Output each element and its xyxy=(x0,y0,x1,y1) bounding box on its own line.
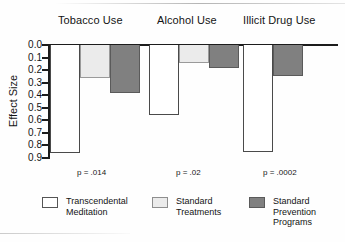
legend-label: Standard Treatments xyxy=(176,196,221,217)
y-tick-mark xyxy=(42,94,49,96)
y-tick-label: 0.4 xyxy=(28,90,42,100)
y-tick-mark xyxy=(42,132,49,134)
y-tick-label: 0.7 xyxy=(28,128,42,138)
y-tick-label: 0.1 xyxy=(28,53,42,63)
p-value-tobacco: p = .014 xyxy=(77,168,106,177)
legend-label: Transcendental Meditation xyxy=(66,196,128,217)
legend-item-transcendental-meditation: Transcendental Meditation xyxy=(42,196,128,217)
bar xyxy=(50,45,80,153)
y-tick-label: 0.8 xyxy=(28,140,42,150)
y-tick-mark xyxy=(42,144,49,146)
y-tick-label: 0.2 xyxy=(28,65,42,75)
legend-swatch-white-icon xyxy=(42,197,58,208)
y-tick-mark xyxy=(42,107,49,109)
y-tick-mark xyxy=(42,57,49,59)
bar xyxy=(149,45,179,115)
y-tick-label: 0.3 xyxy=(28,78,42,88)
y-tick-label: 0.9 xyxy=(28,153,42,163)
y-tick-label: 0.6 xyxy=(28,115,42,125)
y-tick-mark xyxy=(42,157,49,159)
chart-legend: Transcendental Meditation Standard Treat… xyxy=(0,192,345,240)
bar xyxy=(80,45,110,78)
y-tick-mark xyxy=(42,44,49,46)
y-tick-mark xyxy=(42,119,49,121)
bar xyxy=(209,45,239,68)
legend-swatch-dark-gray-icon xyxy=(249,197,265,208)
bar xyxy=(179,45,209,63)
bar xyxy=(273,45,303,76)
legend-swatch-light-gray-icon xyxy=(152,197,168,208)
bar xyxy=(243,45,273,152)
p-value-illicit-drug: p = .0002 xyxy=(263,168,297,177)
chart-figure: Tobacco Use Alcohol Use Illicit Drug Use… xyxy=(0,0,345,242)
y-tick-label: 0.5 xyxy=(28,103,42,113)
bar xyxy=(110,45,140,93)
legend-item-standard-prevention-programs: Standard Prevention Programs xyxy=(249,196,316,228)
y-tick-label: 0.0 xyxy=(28,40,42,50)
p-value-alcohol: p = .02 xyxy=(176,168,201,177)
legend-label: Standard Prevention Programs xyxy=(273,196,316,228)
legend-item-standard-treatments: Standard Treatments xyxy=(152,196,221,217)
y-tick-mark xyxy=(42,69,49,71)
y-tick-mark xyxy=(42,82,49,84)
